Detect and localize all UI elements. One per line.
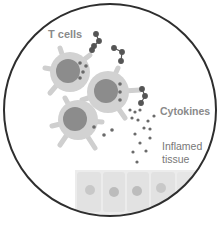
label-cytokines: Cytokines (160, 105, 210, 117)
inflamed-tissue (75, 170, 215, 219)
label-t-cells: T cells (48, 28, 82, 40)
label-inflamed: Inflamed (162, 140, 202, 152)
label-tissue: tissue (162, 153, 189, 165)
